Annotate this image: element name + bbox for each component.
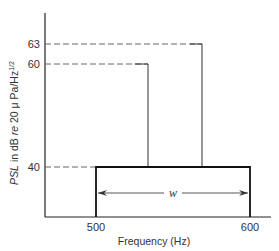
x-tick-500: 500	[87, 221, 105, 233]
y-tick-60: 60	[28, 58, 40, 70]
y-tick-40: 40	[28, 161, 40, 173]
y-tick-63: 63	[28, 38, 40, 50]
peak-63	[190, 44, 202, 167]
chart-svg: w 40 60 63 500 600 Frequency (Hz) PSL in…	[0, 0, 279, 251]
y-axis-title-ref: 20 μ Pa/Hz	[8, 71, 20, 126]
y-axis-title-psl: PSL	[8, 165, 20, 185]
y-axis-title-exp: 1/2	[8, 61, 15, 71]
y-axis-title: PSL in dB re 20 μ Pa/Hz1/2	[8, 61, 20, 185]
y-axis-title-re: re	[8, 126, 20, 135]
width-annotation: w	[98, 186, 248, 200]
y-axis-title-in-db: in dB	[8, 135, 20, 165]
peak-60	[135, 64, 148, 167]
peaks	[135, 44, 202, 167]
width-label: w	[169, 186, 177, 200]
psl-spectrum-chart: w 40 60 63 500 600 Frequency (Hz) PSL in…	[0, 0, 279, 251]
x-tick-labels: 500 600	[87, 221, 259, 233]
y-tick-labels: 40 60 63	[28, 38, 40, 173]
x-tick-600: 600	[241, 221, 259, 233]
x-axis-title: Frequency (Hz)	[118, 235, 190, 247]
reference-lines	[45, 44, 202, 167]
